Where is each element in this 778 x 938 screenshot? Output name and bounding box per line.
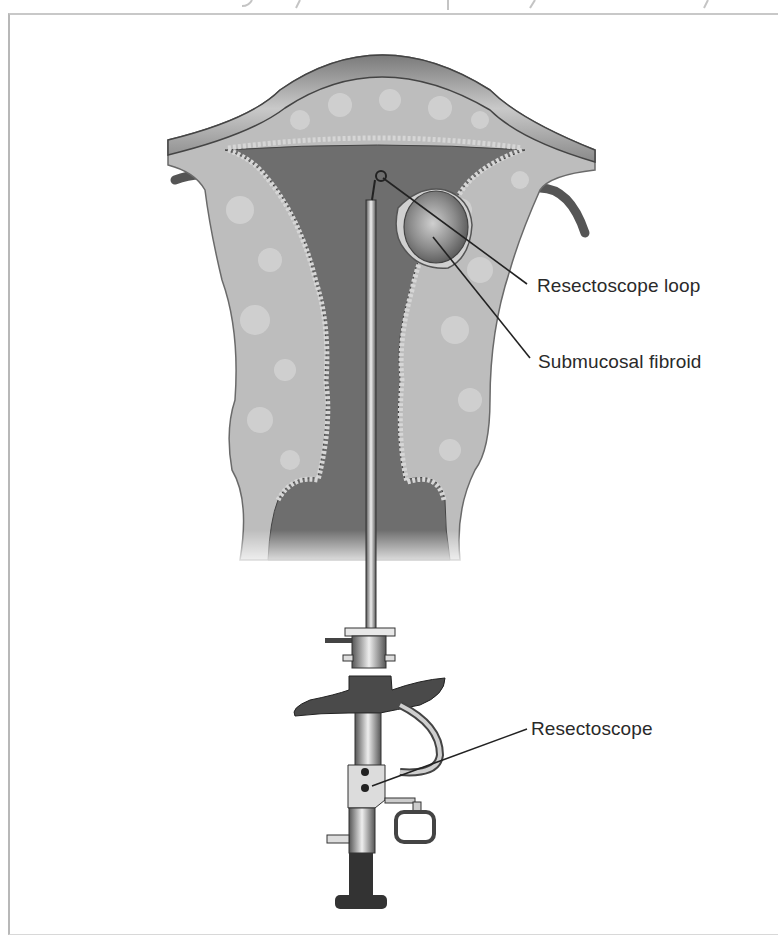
label-resectoscope-loop: Resectoscope loop	[537, 275, 700, 297]
label-submucosal-fibroid: Submucosal fibroid	[538, 351, 701, 373]
label-resectoscope: Resectoscope	[531, 718, 653, 740]
uterus	[168, 55, 595, 570]
resectoscope-handle	[294, 628, 445, 909]
